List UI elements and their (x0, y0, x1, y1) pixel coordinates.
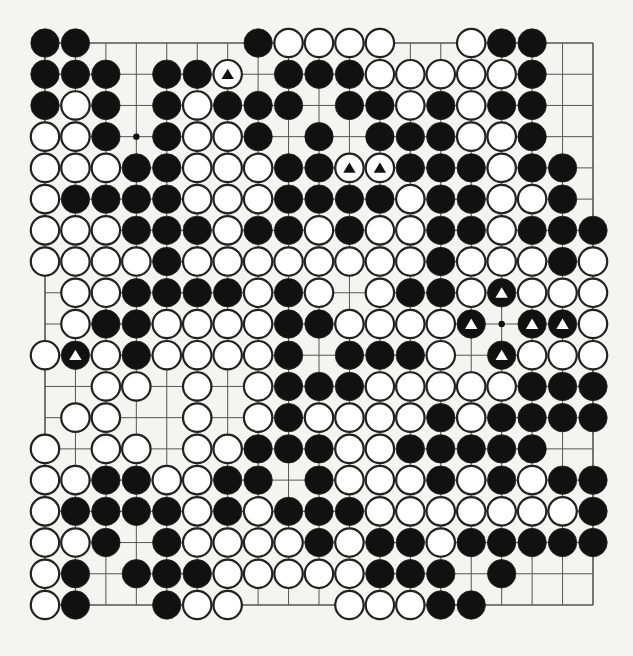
black-stone (457, 435, 485, 463)
black-stone (548, 372, 576, 400)
white-stone (183, 528, 211, 556)
black-stone (183, 60, 211, 88)
black-stone (244, 466, 272, 494)
white-stone (31, 247, 59, 275)
white-stone (396, 310, 424, 338)
white-stone (244, 185, 272, 213)
black-stone (335, 60, 363, 88)
black-stone (366, 91, 394, 119)
black-stone (487, 528, 515, 556)
black-stone (244, 216, 272, 244)
white-stone (92, 216, 120, 244)
black-stone (305, 154, 333, 182)
black-stone (305, 60, 333, 88)
black-stone (274, 341, 302, 369)
black-stone (31, 60, 59, 88)
black-stone (274, 60, 302, 88)
black-stone (122, 279, 150, 307)
white-stone (31, 216, 59, 244)
white-stone (61, 122, 89, 150)
black-stone (518, 435, 546, 463)
white-stone (457, 60, 485, 88)
black-stone (548, 466, 576, 494)
white-stone (61, 279, 89, 307)
black-stone (548, 216, 576, 244)
black-stone (487, 403, 515, 431)
white-stone (518, 185, 546, 213)
white-stone (427, 310, 455, 338)
black-stone (579, 497, 607, 525)
white-stone (579, 341, 607, 369)
black-stone (92, 60, 120, 88)
white-stone (183, 122, 211, 150)
black-stone (487, 466, 515, 494)
white-stone-marked (213, 60, 241, 88)
white-stone (213, 247, 241, 275)
white-stone (335, 403, 363, 431)
white-stone (183, 403, 211, 431)
white-stone (427, 372, 455, 400)
black-stone (92, 497, 120, 525)
white-stone (335, 247, 363, 275)
black-stone (305, 372, 333, 400)
white-stone (487, 372, 515, 400)
black-stone (427, 216, 455, 244)
black-stone (305, 528, 333, 556)
black-stone (213, 279, 241, 307)
black-stone (366, 185, 394, 213)
black-stone (427, 466, 455, 494)
white-stone (213, 310, 241, 338)
black-stone (213, 466, 241, 494)
go-board-diagram (0, 0, 633, 656)
black-stone (335, 216, 363, 244)
white-stone (366, 279, 394, 307)
black-stone (518, 91, 546, 119)
black-stone (518, 372, 546, 400)
white-stone (61, 216, 89, 244)
black-stone (305, 122, 333, 150)
white-stone (153, 310, 181, 338)
white-stone (183, 372, 211, 400)
black-stone (579, 372, 607, 400)
white-stone (548, 497, 576, 525)
white-stone (396, 591, 424, 619)
black-stone (457, 528, 485, 556)
white-stone (31, 185, 59, 213)
white-stone (366, 466, 394, 494)
black-stone (153, 279, 181, 307)
black-stone (274, 216, 302, 244)
black-stone (274, 310, 302, 338)
black-stone-marked (61, 341, 89, 369)
black-stone (548, 247, 576, 275)
white-stone (213, 560, 241, 588)
black-stone (518, 122, 546, 150)
black-stone (518, 528, 546, 556)
white-stone (274, 247, 302, 275)
star-point (498, 321, 504, 327)
white-stone (518, 247, 546, 275)
white-stone (305, 247, 333, 275)
white-stone (92, 372, 120, 400)
black-stone (274, 435, 302, 463)
white-stone (335, 310, 363, 338)
black-stone (548, 154, 576, 182)
white-stone (244, 497, 272, 525)
black-stone (427, 91, 455, 119)
black-stone (366, 560, 394, 588)
black-stone (61, 60, 89, 88)
white-stone (61, 310, 89, 338)
white-stone (61, 247, 89, 275)
black-stone (548, 528, 576, 556)
white-stone (305, 279, 333, 307)
black-stone (579, 403, 607, 431)
black-stone (487, 560, 515, 588)
black-stone (335, 372, 363, 400)
black-stone (92, 122, 120, 150)
black-stone (427, 185, 455, 213)
black-stone (579, 466, 607, 494)
white-stone (92, 341, 120, 369)
white-stone (244, 560, 272, 588)
black-stone (61, 560, 89, 588)
white-stone (244, 341, 272, 369)
black-stone (335, 497, 363, 525)
